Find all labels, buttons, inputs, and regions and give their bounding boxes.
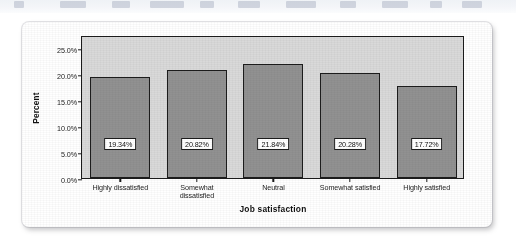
bar-group: 19.34%Highly dissatisfied (82, 37, 159, 178)
bar (397, 86, 457, 178)
bar-group: 20.28%Somewhat satisfied (312, 37, 389, 178)
bar-data-label: 21.84% (258, 138, 290, 150)
x-axis-tick-mark (120, 178, 121, 182)
y-axis-tick-label: 10.0% (57, 124, 77, 133)
bar-data-label: 20.82% (181, 138, 213, 150)
x-axis-category-label: Highly satisfied (385, 184, 469, 192)
scanned-page-remnant-strip (0, 0, 516, 13)
bar-chart: Percent 0.0%5.0%10.0%15.0%20.0%25.0% 19.… (22, 22, 492, 227)
x-axis-category-label: Highly dissatisfied (78, 184, 162, 192)
y-axis-title: Percent (32, 92, 41, 123)
figure-card: Percent 0.0%5.0%10.0%15.0%20.0%25.0% 19.… (22, 22, 492, 227)
bar (90, 77, 150, 178)
x-axis-tick-mark (349, 178, 350, 182)
x-axis-category-label: Somewhat dissatisfied (155, 184, 239, 201)
bar-data-label: 20.28% (334, 138, 366, 150)
bar-data-label: 19.34% (104, 138, 136, 150)
y-axis-tick-mark (78, 179, 82, 180)
y-axis-tick-label: 15.0% (57, 98, 77, 107)
y-axis-tick-label: 5.0% (61, 150, 77, 159)
bar (243, 64, 303, 178)
bar-group: 17.72%Highly satisfied (388, 37, 465, 178)
bar-group: 21.84%Neutral (235, 37, 312, 178)
bar (167, 70, 227, 178)
plot-area: 0.0%5.0%10.0%15.0%20.0%25.0% 19.34%Highl… (81, 36, 464, 179)
y-axis-tick-label: 0.0% (61, 176, 77, 185)
x-axis-category-label: Neutral (231, 184, 315, 192)
bar-series: 19.34%Highly dissatisfied20.82%Somewhat … (82, 37, 463, 178)
y-axis-tick-label: 25.0% (57, 46, 77, 55)
x-axis-tick-mark (196, 178, 197, 182)
bar-group: 20.82%Somewhat dissatisfied (159, 37, 236, 178)
x-axis-category-label: Somewhat satisfied (308, 184, 392, 192)
x-axis-tick-mark (426, 178, 427, 182)
y-axis-tick-label: 20.0% (57, 72, 77, 81)
x-axis-title: Job satisfaction (240, 204, 307, 214)
bar-data-label: 17.72% (411, 138, 443, 150)
bar (320, 73, 380, 178)
x-axis-tick-mark (273, 178, 274, 182)
